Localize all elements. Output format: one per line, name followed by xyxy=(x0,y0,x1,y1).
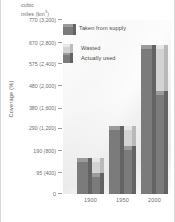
y-tick-mark xyxy=(58,128,62,129)
y-tick-1: 670 (2,800) xyxy=(1,39,63,47)
y-tick-label: 380 (1,600) xyxy=(29,104,56,112)
x-axis-label-1950: 1950 xyxy=(108,197,138,203)
y-tick-4: 380 (1,600) xyxy=(1,104,63,112)
y-tick-mark xyxy=(58,42,62,43)
bar-taken-1950 xyxy=(109,126,124,194)
y-tick-mark xyxy=(58,193,62,194)
y-tick-5: 290 (1,200) xyxy=(1,124,63,132)
legend-swatch-wasted-used-icon xyxy=(63,44,78,63)
y-tick-6: 190 (800) xyxy=(1,147,63,155)
y-tick-label: 480 (2,000) xyxy=(29,82,56,90)
y-tick-mark xyxy=(58,63,62,64)
bar-taken-2000 xyxy=(141,45,156,194)
y-tick-label: 190 (800) xyxy=(33,147,56,155)
legend-item-taken: Taken from supply xyxy=(63,24,126,35)
y-tick-label: 575 (2,400) xyxy=(29,60,56,68)
y-tick-label: 0 xyxy=(53,190,56,198)
y-tick-mark xyxy=(58,172,62,173)
bar-taken-1900 xyxy=(77,158,92,194)
y-tick-mark xyxy=(58,150,62,151)
y-tick-mark xyxy=(58,85,62,86)
legend-label-taken: Taken from supply xyxy=(79,24,126,32)
y-axis-unit-line-1: cubic xyxy=(21,2,73,9)
legend-label-used: Actually used xyxy=(81,54,116,64)
y-tick-label: 770 (3,200) xyxy=(29,16,56,24)
y-tick-label: 95 (400) xyxy=(36,169,56,177)
y-tick-mark xyxy=(58,19,62,20)
y-tick-0: 770 (3,200) xyxy=(1,16,63,24)
legend-item-wasted-used: Wasted Actually used xyxy=(63,44,116,63)
y-tick-3: 480 (2,000) xyxy=(1,82,63,90)
chart-root: cubic miles (km3) Coverage (%) 770 (3,20… xyxy=(0,0,175,222)
legend-label-wasted: Wasted xyxy=(81,44,116,54)
y-tick-8: 0 xyxy=(1,190,63,198)
legend-labels-stack: Wasted Actually used xyxy=(81,44,116,63)
x-axis-label-1900: 1900 xyxy=(76,197,106,203)
legend-swatch-taken-icon xyxy=(63,24,76,35)
y-tick-7: 95 (400) xyxy=(1,169,63,177)
x-axis-label-2000: 2000 xyxy=(140,197,170,203)
y-tick-2: 575 (2,400) xyxy=(1,60,63,68)
y-tick-label: 290 (1,200) xyxy=(29,124,56,132)
y-tick-mark xyxy=(58,108,62,109)
y-tick-label: 670 (2,800) xyxy=(29,39,56,47)
